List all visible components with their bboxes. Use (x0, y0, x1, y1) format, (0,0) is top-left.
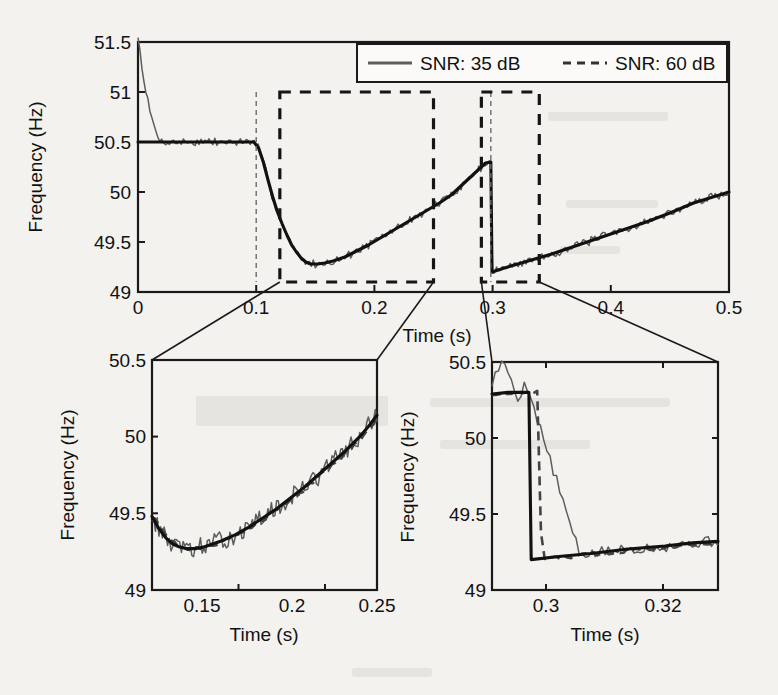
inset-right-trace-snr35 (492, 361, 718, 557)
main-ytick-49: 49 (110, 282, 131, 303)
inset-right-xtick-0: 0.3 (533, 595, 559, 616)
page-bleed-artifacts (196, 112, 670, 677)
inset-left-xtick-1: 0.2 (279, 595, 305, 616)
legend-label-snr35: SNR: 35 dB (420, 53, 520, 74)
inset-right-ytick-49: 49 (465, 580, 486, 601)
main-xtick-2: 0.2 (361, 297, 387, 318)
main-ytick-50: 50 (110, 182, 131, 203)
main-ytick-51-5: 51.5 (94, 32, 131, 53)
inset-left-ytick-50: 50 (125, 426, 146, 447)
inset-right-ytick-49-5: 49.5 (449, 504, 486, 525)
inset-left-yticks: 49 49.5 50 50.5 (109, 350, 158, 601)
connector-right-outer (539, 282, 718, 362)
figure-canvas: 0 0.1 0.2 0.3 0.4 0.5 49 49.5 50 50.5 51… (0, 0, 778, 695)
inset-left-xaxis-title: Time (s) (230, 624, 299, 645)
inset-left-xtick-0: 0.15 (184, 595, 221, 616)
main-xtick-1: 0.1 (243, 297, 269, 318)
inset-right-ytick-50-5: 50.5 (449, 352, 486, 373)
main-ytick-50-5: 50.5 (94, 132, 131, 153)
main-legend: SNR: 35 dB SNR: 60 dB (357, 44, 727, 82)
main-yaxis-title: Frequency (Hz) (25, 102, 46, 233)
inset-left-plot: 0.15 0.2 0.25 49 49.5 50 50.5 Time (s) F… (57, 350, 395, 645)
connector-right-inner (481, 282, 492, 362)
main-plot: 0 0.1 0.2 0.3 0.4 0.5 49 49.5 50 50.5 51… (25, 32, 742, 346)
inset-left-trace-snr35 (152, 409, 377, 556)
inset-right-xtick-1: 0.32 (645, 595, 682, 616)
inset-left-trace-snr60 (152, 417, 377, 550)
inset-right-frame (492, 362, 718, 590)
main-xaxis-title: Time (s) (403, 325, 472, 346)
connector-left-outer (152, 282, 280, 360)
inset-right-yaxis-title: Frequency (Hz) (397, 412, 418, 543)
inset-right-xaxis-title: Time (s) (571, 624, 640, 645)
connector-left-inner (377, 282, 434, 360)
main-xtick-5: 0.5 (716, 297, 742, 318)
legend-label-snr60: SNR: 60 dB (615, 53, 715, 74)
zoom-connectors (152, 282, 718, 362)
inset-right-trace-snr60 (492, 391, 718, 559)
inset-right-trace-reference (492, 392, 718, 559)
inset-left-xtick-2: 0.25 (359, 595, 396, 616)
main-ytick-49-5: 49.5 (94, 232, 131, 253)
zoom-box-left (280, 92, 434, 282)
inset-right-plot: 0.3 0.32 49 49.5 50 50.5 Time (s) Freque… (397, 352, 718, 645)
inset-left-frame (152, 360, 377, 590)
main-ytick-51: 51 (110, 82, 131, 103)
inset-left-xticks: 0.15 0.2 0.25 (184, 584, 396, 616)
main-plot-xticks: 0 0.1 0.2 0.3 0.4 0.5 (133, 285, 743, 318)
inset-left-trace-reference (152, 415, 377, 548)
inset-left-ytick-49: 49 (125, 580, 146, 601)
inset-right-ytick-50: 50 (465, 428, 486, 449)
inset-right-yticks: 49 49.5 50 50.5 (449, 352, 718, 601)
main-xtick-0: 0 (133, 297, 144, 318)
inset-left-yaxis-title: Frequency (Hz) (57, 410, 78, 541)
inset-left-ytick-50-5: 50.5 (109, 350, 146, 371)
inset-left-ytick-49-5: 49.5 (109, 503, 146, 524)
